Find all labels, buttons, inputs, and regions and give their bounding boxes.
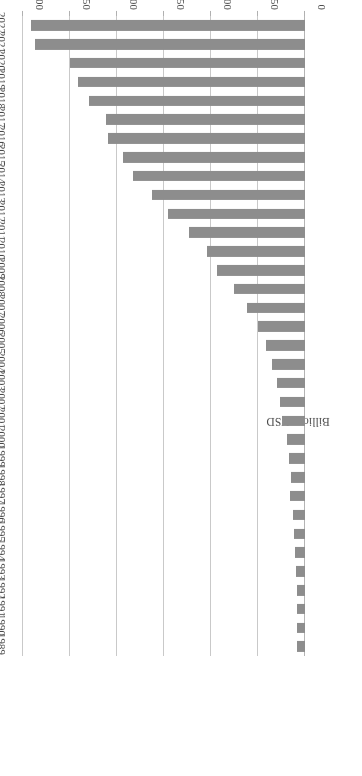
bar-row: 1999	[23, 449, 305, 468]
bar-row: 2017	[23, 110, 305, 129]
bar	[293, 510, 305, 521]
category-label: 1996	[0, 501, 19, 523]
bar-row: 1998	[23, 468, 305, 487]
axis-tick-label: 50	[235, 0, 281, 10]
bar	[168, 209, 305, 220]
category-label: 1994	[0, 539, 19, 561]
category-label: 2010	[0, 238, 19, 260]
bar	[297, 604, 305, 615]
category-label: 2012	[0, 200, 19, 222]
category-label: 2017	[0, 106, 19, 128]
category-label: 2000	[0, 426, 19, 448]
plot-wrapper: Billions USD 050100150200250300198919901…	[0, 0, 320, 776]
bar	[123, 152, 305, 163]
bar-row: 2020	[23, 54, 305, 73]
bar-row: 2003	[23, 374, 305, 393]
bar-row: 1997	[23, 487, 305, 506]
category-label: 2005	[0, 332, 19, 354]
bar-row: 1996	[23, 505, 305, 524]
axis-tick-label: 300	[0, 0, 46, 10]
category-label: 2019	[0, 68, 19, 90]
bar-row: 2002	[23, 392, 305, 411]
bar	[289, 453, 305, 464]
bar-row: 2006	[23, 317, 305, 336]
bar-row: 2010	[23, 242, 305, 261]
bar	[70, 58, 305, 69]
bar-row: 2001	[23, 411, 305, 430]
bar	[108, 133, 305, 144]
category-label: 2006	[0, 313, 19, 335]
bar-row: 2007	[23, 298, 305, 317]
bar	[272, 359, 305, 370]
bar	[297, 585, 305, 596]
bar	[280, 397, 305, 408]
bar	[247, 303, 305, 314]
category-label: 2007	[0, 294, 19, 316]
bar-row: 2000	[23, 430, 305, 449]
bar-row: 1995	[23, 524, 305, 543]
axis-tick-label: 250	[47, 0, 93, 10]
bar	[31, 20, 305, 31]
bar	[277, 378, 305, 389]
bar	[297, 623, 305, 634]
bar-row: 1992	[23, 581, 305, 600]
category-label: 2001	[0, 407, 19, 429]
bar-row: 1991	[23, 600, 305, 619]
bar	[296, 566, 305, 577]
category-label: 1995	[0, 520, 19, 542]
figure-caption: Figure 3.3Defense Budget Growth, 1989–20…	[346, 770, 360, 776]
bar-row: 2013	[23, 185, 305, 204]
bar	[217, 265, 305, 276]
plot-area: 0501001502002503001989199019911992199319…	[23, 16, 305, 656]
bar-row: 2008	[23, 280, 305, 299]
bar	[89, 96, 305, 107]
figure-container: Billions USD 050100150200250300198919901…	[0, 0, 362, 776]
bar	[133, 171, 305, 182]
bar-row: 2004	[23, 355, 305, 374]
bar-row: 2012	[23, 204, 305, 223]
bar	[35, 39, 305, 50]
bar	[207, 246, 305, 257]
bar-row: 1989	[23, 637, 305, 656]
bar	[152, 190, 305, 201]
bar	[106, 114, 305, 125]
category-label: 2016	[0, 125, 19, 147]
bar-row: 2021	[23, 35, 305, 54]
bar	[282, 416, 305, 427]
bar-row: 2018	[23, 91, 305, 110]
category-label: 2002	[0, 388, 19, 410]
bar-row: 1993	[23, 562, 305, 581]
bar	[294, 529, 305, 540]
chart-rotated-group: Billions USD 050100150200250300198919901…	[0, 0, 320, 776]
bar	[266, 340, 305, 351]
bar-row: 2022	[23, 16, 305, 35]
axis-tick-label: 150	[141, 0, 187, 10]
bar	[189, 227, 305, 238]
category-label: 1999	[0, 445, 19, 467]
category-label: 2018	[0, 87, 19, 109]
bar	[290, 491, 305, 502]
bar-row: 1990	[23, 618, 305, 637]
bar-row: 2015	[23, 148, 305, 167]
bar-row: 1994	[23, 543, 305, 562]
bar-row: 2005	[23, 336, 305, 355]
bar-row: 2014	[23, 167, 305, 186]
axis-tick-label: 200	[94, 0, 140, 10]
bar	[291, 472, 305, 483]
bar-row: 2019	[23, 72, 305, 91]
bar-row: 2009	[23, 261, 305, 280]
category-label: 2011	[0, 219, 19, 241]
bar	[295, 547, 305, 558]
bar	[297, 642, 305, 653]
axis-tick-label: 100	[188, 0, 234, 10]
bar	[258, 322, 305, 333]
category-label: 2013	[0, 181, 19, 203]
bar-row: 2016	[23, 129, 305, 148]
bar	[234, 284, 305, 295]
category-label: 1993	[0, 558, 19, 580]
bar	[78, 77, 305, 88]
bar-row: 2011	[23, 223, 305, 242]
bar	[287, 434, 305, 445]
category-label: 2022	[0, 12, 19, 34]
category-label: 1990	[0, 614, 19, 636]
